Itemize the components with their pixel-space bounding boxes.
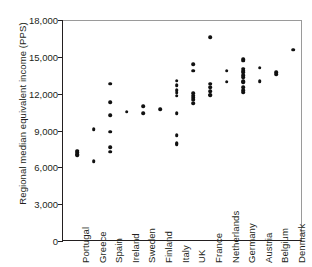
data-point: [92, 159, 96, 163]
data-point: [241, 81, 245, 85]
data-point: [291, 48, 295, 52]
y-axis-tick-label: 0: [18, 236, 58, 247]
data-point: [175, 143, 179, 147]
data-point: [142, 105, 146, 109]
data-point: [108, 82, 112, 86]
y-axis-tick-label: 3,000: [18, 199, 58, 210]
data-point: [192, 101, 196, 105]
data-points-layer: [63, 21, 303, 242]
data-point: [142, 111, 146, 115]
data-point: [175, 111, 179, 115]
data-point: [108, 113, 112, 117]
y-axis-tick-label: 15,000: [18, 51, 58, 62]
y-axis-tick-labels: 03,0006,0009,00012,00015,00018,000: [14, 0, 58, 267]
data-point: [175, 133, 179, 137]
data-point: [108, 146, 112, 150]
data-point: [108, 130, 112, 134]
data-point: [241, 59, 245, 63]
y-axis-tick-label: 6,000: [18, 162, 58, 173]
data-point: [258, 66, 262, 70]
data-point: [208, 35, 212, 39]
y-axis-tick-mark: [58, 57, 63, 58]
data-point: [241, 69, 245, 73]
scatter-chart-figure: Regional median equivalent income (PPS) …: [0, 0, 312, 267]
data-point: [108, 100, 112, 104]
data-point: [158, 108, 162, 112]
y-axis-tick-mark: [58, 241, 63, 242]
y-axis-tick-label: 18,000: [18, 15, 58, 26]
data-point: [258, 79, 262, 83]
data-point: [108, 150, 112, 154]
data-point: [192, 62, 196, 66]
y-axis-tick-mark: [58, 94, 63, 95]
data-point: [175, 94, 179, 98]
y-axis-tick-mark: [58, 167, 63, 168]
data-point: [225, 69, 229, 73]
data-point: [241, 90, 245, 94]
data-point: [208, 93, 212, 97]
data-point: [225, 80, 229, 84]
data-point: [275, 73, 279, 77]
data-point: [175, 84, 179, 88]
plot-area: [62, 20, 302, 241]
y-axis-tick-mark: [58, 131, 63, 132]
data-point: [125, 110, 129, 114]
y-axis-tick-label: 9,000: [18, 125, 58, 136]
x-axis-tick-label: UK: [196, 250, 207, 263]
data-point: [192, 69, 196, 73]
y-axis-tick-label: 12,000: [18, 88, 58, 99]
x-axis-tick-label: Italy: [180, 245, 191, 263]
data-point: [175, 79, 179, 83]
data-point: [75, 154, 79, 158]
y-axis-tick-mark: [58, 20, 63, 21]
y-axis-tick-mark: [58, 204, 63, 205]
data-point: [92, 127, 96, 131]
